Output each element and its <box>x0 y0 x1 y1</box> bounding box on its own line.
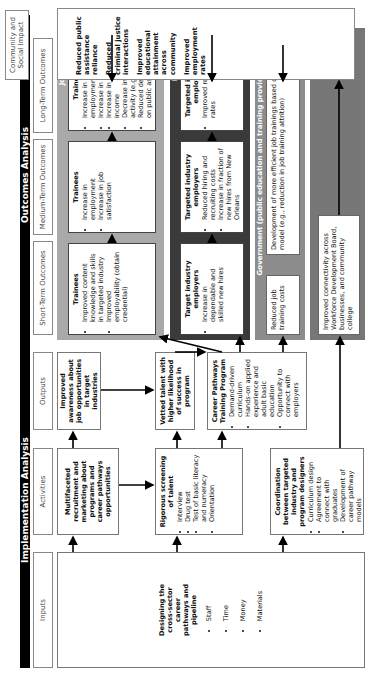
column-header-short-term: Short-Term Outcomes <box>33 241 53 335</box>
activity-item: Development of career pathway models <box>339 453 363 522</box>
box-item: Increase in dependable and skilled new h… <box>201 248 225 322</box>
activity-title: Multifaceted recruitment and marketing a… <box>64 453 112 530</box>
short-term-government-box: Reduced job training costs <box>266 275 300 335</box>
activity-item: Curriculum design <box>307 453 315 522</box>
input-item: Staff <box>205 591 213 621</box>
activity-title: Rigorous screening of talent <box>159 453 175 530</box>
column-header-outputs: Outputs <box>33 352 53 430</box>
box-text: Improved connectivity across Workforce D… <box>322 227 354 330</box>
column-header-community: Community and Social Impact <box>5 10 29 80</box>
medium-term-employers-box: Targeted industry employers Reduced hiri… <box>180 141 244 233</box>
inputs-title: Designing the cross-sector career pathwa… <box>158 580 198 640</box>
short-term-employers-box: Target industry employers Increase in de… <box>180 243 244 335</box>
box-item: Improved content knowledge and skills in… <box>81 248 105 322</box>
medium-term-trainees-box: Trainees Increase in employmentIncrease … <box>68 141 156 233</box>
activity-item: Orientation <box>208 453 216 522</box>
box-title: Targeted industry employers <box>184 146 200 228</box>
output-item: Demand-driven curriculum <box>228 357 244 417</box>
box-item: Increase in fraction of new hires from N… <box>217 146 241 220</box>
community-item: Reduced public assistance reliance <box>75 13 99 75</box>
activity-item: Drug test <box>184 453 192 522</box>
logic-model-diagram: Implementation Analysis Outcomes Analysi… <box>0 0 375 695</box>
box-item: Increase in employment <box>81 146 97 220</box>
output-item: Opportunity to connect with employers <box>276 357 300 417</box>
box-title: Target industry employers <box>184 248 200 330</box>
activity-item: Interview <box>176 453 184 522</box>
box-title: Trainees <box>72 248 80 330</box>
box-item: Reduced hiring and recruiting costs <box>201 146 217 220</box>
output-title: Career Pathways Training Program <box>211 357 227 425</box>
output-training-program-box: Career Pathways Training Program Demand-… <box>207 352 307 430</box>
box-text: Reduced job training costs <box>270 285 286 330</box>
output-awareness-box: Improved awareness about job opportuniti… <box>57 352 101 430</box>
column-header-medium-term: Medium-Term Outcomes <box>33 139 53 235</box>
community-item: Improved employment rates <box>183 13 207 75</box>
output-title: Vetted talent with higher likelihood of … <box>159 357 191 425</box>
box-item: Increase in job satisfaction <box>97 146 113 220</box>
output-title: Improved awareness about job opportuniti… <box>59 357 99 425</box>
box-item: Improved employability (obtain credentia… <box>105 248 129 322</box>
column-header-activities: Activities <box>33 448 53 535</box>
activity-screening-box: Rigorous screening of talent Interview D… <box>155 448 243 535</box>
output-item: Hands-on applied experience and adult ba… <box>244 357 276 417</box>
input-item: Time <box>222 591 230 621</box>
activity-title: Coordination between targeted industry a… <box>274 453 306 530</box>
short-term-system-box: Improved connectivity across Workforce D… <box>318 215 360 335</box>
community-impact-box: Reduced public assistance reliance Reduc… <box>57 8 355 80</box>
implementation-analysis-header: Implementation Analysis <box>20 332 30 668</box>
input-item: Money <box>239 591 247 621</box>
activity-item: Agreement to connect with graduates <box>315 453 339 522</box>
column-header-inputs: Inputs <box>33 552 53 668</box>
column-header-long-term: Long-Term Outcomes <box>33 38 53 133</box>
activity-item: Test of basic literacy and numeracy <box>192 453 208 522</box>
community-item: Improved educational attainment across c… <box>136 13 177 75</box>
community-item: Reduced criminal justice interactions <box>105 13 129 75</box>
activity-recruitment-box: Multifaceted recruitment and marketing a… <box>57 448 119 535</box>
inputs-box: Designing the cross-sector career pathwa… <box>57 552 365 668</box>
short-term-trainees-box: Trainees Improved content knowledge and … <box>68 243 156 335</box>
input-item: Materials <box>256 591 264 621</box>
output-vetted-talent-box: Vetted talent with higher likelihood of … <box>155 352 195 430</box>
box-title: Trainees <box>72 146 80 228</box>
box-text: Development of more efficient job traini… <box>270 60 286 250</box>
activity-coordination-box: Coordination between targeted industry a… <box>270 448 364 535</box>
